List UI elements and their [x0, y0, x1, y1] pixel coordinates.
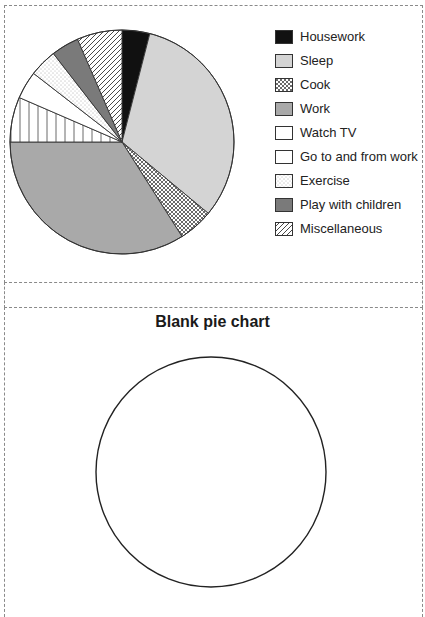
legend-label: Cook [300, 77, 330, 92]
legend-item-work: Work [275, 100, 425, 117]
legend-label: Housework [300, 29, 365, 44]
worksheet-panel-blank-chart [4, 307, 423, 617]
legend-item-cook: Cook [275, 76, 425, 93]
legend-swatch-play-with-children [275, 198, 293, 212]
legend-swatch-sleep [275, 54, 293, 68]
pie-slices [10, 30, 234, 254]
legend-swatch-housework [275, 30, 293, 44]
legend-item-housework: Housework [275, 28, 425, 45]
legend-label: Play with children [300, 197, 401, 212]
legend-item-watch-tv: Watch TV [275, 124, 425, 141]
legend-item-play-with-children: Play with children [275, 196, 425, 213]
legend-swatch-cook [275, 78, 293, 92]
legend-item-exercise: Exercise [275, 172, 425, 189]
legend-label: Go to and from work [300, 149, 418, 164]
legend-swatch-miscellaneous [275, 222, 293, 236]
legend-swatch-work [275, 102, 293, 116]
legend-label: Miscellaneous [300, 221, 382, 236]
legend-label: Sleep [300, 53, 333, 68]
legend-swatch-commute [275, 150, 293, 164]
legend-label: Exercise [300, 173, 350, 188]
legend-label: Work [300, 101, 330, 116]
legend-item-sleep: Sleep [275, 52, 425, 69]
legend-swatch-exercise [275, 174, 293, 188]
legend-item-commute: Go to and from work [275, 148, 425, 165]
legend-item-miscellaneous: Miscellaneous [275, 220, 425, 237]
legend-label: Watch TV [300, 125, 356, 140]
legend-swatch-watch-tv [275, 126, 293, 140]
blank-chart-title: Blank pie chart [0, 313, 425, 331]
